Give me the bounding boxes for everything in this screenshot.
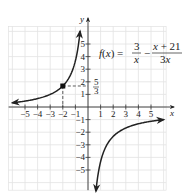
x-tick-label: 5 xyxy=(149,109,154,119)
y-tick-label: −2 xyxy=(75,127,85,137)
y-tick-label: 4 xyxy=(81,52,86,62)
function-graph: −5−4−3−2−112345−5−4−3−2−112345 x y 53 f(… xyxy=(0,0,190,195)
y-tick-label: 3 xyxy=(81,64,86,74)
x-tick-label: 3 xyxy=(124,109,129,119)
y-tick-label: 5 xyxy=(81,39,86,49)
formula-lhs: f(x) = xyxy=(99,47,123,60)
y-tick-label: −5 xyxy=(75,165,85,175)
curve-right-branch xyxy=(96,120,164,192)
y-tick-label: 2 xyxy=(81,77,86,87)
y-axis-label: y xyxy=(79,14,84,24)
x-tick-label: 2 xyxy=(111,109,116,119)
point-label-denominator: 3 xyxy=(94,86,99,96)
curve-left-branch xyxy=(12,31,80,103)
x-tick-label: −3 xyxy=(45,109,55,119)
formula-term1-denominator: x xyxy=(133,53,139,65)
formula-term2-denominator: 3x xyxy=(160,53,171,65)
formula-term2-numerator: x + 21 xyxy=(152,40,181,52)
y-tick-label: 1 xyxy=(81,89,86,99)
y-tick-label: −4 xyxy=(75,152,85,162)
y-tick-label: −1 xyxy=(75,115,85,125)
x-tick-label: 4 xyxy=(136,109,141,119)
x-tick-label: −4 xyxy=(33,109,43,119)
formula-minus: − xyxy=(144,47,150,59)
point-marker xyxy=(60,83,65,88)
x-axis-label: x xyxy=(169,108,174,118)
x-tick-label: −5 xyxy=(20,109,30,119)
y-tick-label: −3 xyxy=(75,140,85,150)
formula-term1-numerator: 3 xyxy=(134,40,140,52)
x-tick-label: −2 xyxy=(58,109,68,119)
labels: x y 53 xyxy=(79,14,174,118)
highlighted-point xyxy=(60,83,65,88)
x-tick-label: 1 xyxy=(98,109,103,119)
